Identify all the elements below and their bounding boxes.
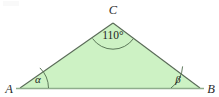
vertex-label-c: C (109, 3, 118, 17)
angle-label-beta: β (174, 73, 181, 85)
vertex-label-b: B (207, 82, 215, 96)
vertex-label-a: A (4, 82, 13, 96)
angle-label-c: 110° (102, 29, 124, 41)
angle-label-alpha: α (35, 73, 41, 85)
triangle-diagram-svg: A B C 110° α β (0, 0, 219, 97)
triangle-figure: A B C 110° α β (0, 0, 219, 97)
